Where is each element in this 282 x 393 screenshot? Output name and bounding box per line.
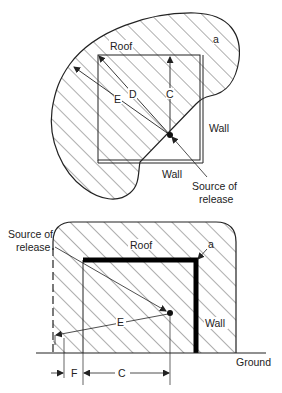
dimension-c-label: C xyxy=(118,367,126,379)
source-label-bottom-line1: Source of xyxy=(8,228,53,240)
wall-bottom-label-top: Wall xyxy=(162,168,182,180)
roof-label-top: Roof xyxy=(110,40,132,52)
distance-e-label-bottom: E xyxy=(117,316,124,328)
distance-e-label-top: E xyxy=(114,93,121,105)
source-label-top-line1: Source of xyxy=(192,180,237,192)
bottom-elevation-view: Source of release Roof a E Wall Ground F… xyxy=(8,222,271,385)
zone-a-label-top: a xyxy=(213,33,219,45)
zone-a-label-bottom: a xyxy=(208,238,214,250)
top-plan-view: Roof a E D C Wall Wall Source of release xyxy=(51,13,239,205)
roof-label-bottom: Roof xyxy=(130,239,152,251)
wall-label-bottom: Wall xyxy=(205,317,225,329)
wall-right-label-top: Wall xyxy=(209,122,229,134)
distance-d-label-top: D xyxy=(129,88,137,100)
hazardous-zone-diagram: Roof a E D C Wall Wall Source of release xyxy=(0,0,282,393)
hazard-zone-top xyxy=(51,13,239,199)
dimension-f-label: F xyxy=(71,367,77,379)
ground-label: Ground xyxy=(236,356,271,368)
source-of-release-dot-top xyxy=(167,132,173,138)
source-label-top-line2: release xyxy=(199,193,234,205)
source-label-bottom-line2: release xyxy=(16,241,51,253)
distance-c-label-top: C xyxy=(166,88,174,100)
source-of-release-dot-bottom xyxy=(167,310,173,316)
